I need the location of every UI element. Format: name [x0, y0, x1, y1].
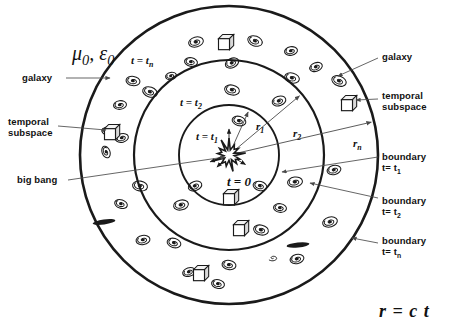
cube-front — [219, 39, 230, 50]
center-time-label: t = 0 — [214, 160, 251, 204]
galaxy-icon — [224, 84, 241, 97]
ring-tn: t = tn — [131, 54, 153, 70]
galaxy-icon — [308, 61, 323, 74]
equation-text: r = c t — [379, 301, 430, 319]
galaxy-icon — [173, 199, 190, 212]
callout-big-bang-line-0: big bang — [17, 175, 57, 186]
galaxy-edge-on-icon — [286, 241, 309, 248]
galaxy-icon — [224, 56, 241, 70]
galaxy-icon — [271, 94, 287, 107]
temporal-subspace-icon — [219, 35, 234, 50]
galaxy-icon — [187, 35, 204, 48]
galaxy-icon — [141, 85, 158, 99]
ring-t1: t = t1 — [196, 130, 218, 146]
callout-boundary-tn-line-1: t= tn — [382, 247, 426, 260]
center-time-text: t = 0 — [227, 174, 251, 189]
temporal-subspace-icon — [105, 125, 120, 140]
galaxy-icon — [287, 176, 303, 188]
diagram-canvas: μ0, ε0 r = c t t = 0 t = tnt = t2t = t1 … — [0, 0, 469, 319]
galaxy-icon — [289, 253, 305, 265]
callout-boundary-tn: boundaryt= tn — [382, 236, 426, 259]
radius-r2: r2 — [293, 127, 301, 143]
galaxy-icon — [184, 57, 198, 68]
galaxy-icon — [253, 224, 270, 237]
leader-big-bang — [68, 157, 225, 180]
callout-temporal-subspace-right: temporalsubspace — [382, 91, 427, 112]
cube-front — [234, 225, 245, 236]
leader-temporal-subspace-right — [356, 99, 378, 100]
galaxy-icon — [221, 259, 236, 271]
callout-galaxy-right: galaxy — [382, 52, 412, 63]
galaxy-icon — [211, 278, 225, 289]
galaxy-icon — [246, 34, 263, 48]
galaxy-icon — [321, 215, 338, 229]
temporal-subspace-icon — [342, 96, 357, 111]
galaxy-icon — [166, 237, 182, 250]
galaxy-small-icon — [269, 256, 277, 260]
cube-front — [194, 270, 205, 281]
callout-temporal-subspace-left: temporalsubspace — [8, 117, 53, 138]
galaxy-icon — [273, 203, 287, 213]
cube-front — [342, 100, 353, 111]
leader-boundary-t1 — [282, 157, 378, 172]
callout-boundary-t1: boundaryt= t1 — [382, 152, 426, 175]
radius-r1: r1 — [256, 120, 264, 136]
callout-temporal-subspace-left-line-1: subspace — [8, 128, 53, 139]
callout-boundary-t1-line-1: t= t1 — [382, 163, 426, 176]
equation-label: r = c t — [357, 281, 430, 319]
callout-galaxy-left-line-0: galaxy — [22, 73, 52, 84]
galaxy-icon — [100, 145, 112, 159]
leader-boundary-tn — [352, 238, 378, 243]
galaxy-icon — [113, 100, 127, 110]
constants-text: μ0, ε0 — [72, 42, 114, 64]
temporal-subspace-icon — [194, 266, 209, 281]
galaxy-icon — [135, 234, 150, 246]
temporal-subspace-icon — [234, 221, 249, 236]
constants-label: μ0, ε0 — [52, 20, 114, 91]
callout-galaxy-left: galaxy — [22, 73, 52, 84]
cube-front — [105, 129, 116, 140]
callout-galaxy-right-line-0: galaxy — [382, 52, 412, 63]
galaxy-icon — [284, 46, 298, 57]
radius-rn: rn — [353, 137, 362, 153]
ring-t2: t = t2 — [180, 96, 202, 112]
galaxy-icon — [326, 164, 342, 176]
callout-temporal-subspace-right-line-1: subspace — [382, 102, 427, 113]
galaxy-core — [230, 61, 234, 65]
callout-boundary-t2-line-1: t= t2 — [382, 207, 426, 220]
galaxy-icon — [113, 198, 128, 210]
galaxy-edge-body — [286, 241, 309, 248]
callout-boundary-t2: boundaryt= t2 — [382, 196, 426, 219]
galaxy-icon — [125, 75, 140, 86]
leader-boundary-t2 — [310, 183, 378, 198]
callout-big-bang: big bang — [17, 175, 57, 186]
